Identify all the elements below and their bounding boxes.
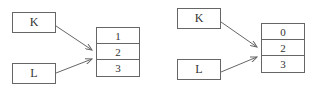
pointer-k-left: K: [12, 12, 56, 33]
array-table-left: 1 2 3: [96, 27, 140, 77]
arrow-k-to-table-left: [56, 26, 92, 50]
pointer-label: K: [195, 11, 204, 26]
array-cell: 1: [97, 28, 139, 44]
array-table-right: 0 2 3: [261, 23, 305, 73]
array-cell: 2: [262, 40, 304, 56]
array-cell: 3: [262, 56, 304, 72]
arrow-l-to-table-left: [56, 59, 92, 73]
pointer-label: K: [30, 15, 39, 30]
array-cell: 2: [97, 44, 139, 60]
pointer-k-right: K: [177, 8, 221, 29]
arrow-l-to-table-right: [221, 57, 257, 72]
pointer-l-left: L: [12, 63, 56, 84]
arrow-k-to-table-right: [221, 22, 257, 47]
pointer-label: L: [30, 66, 37, 81]
array-cell: 3: [97, 60, 139, 76]
pointer-label: L: [195, 62, 202, 77]
array-cell: 0: [262, 24, 304, 40]
pointer-l-right: L: [177, 59, 221, 80]
